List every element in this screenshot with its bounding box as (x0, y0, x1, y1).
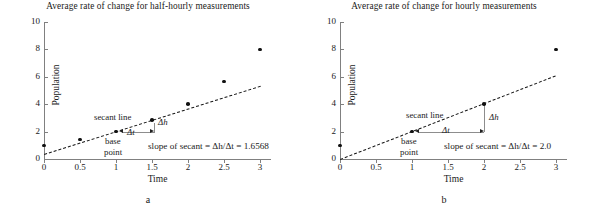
x-axis-label-a: Time (44, 174, 271, 184)
x-tick-label-1_5: 1.5 (433, 162, 463, 172)
x-tick-label-1_5: 1.5 (137, 162, 167, 172)
y-tick-label-6: 6 (6, 72, 40, 81)
annotation-slope-b: slope of secant = Δh/Δt = 2.0 (444, 141, 551, 151)
x-tick-label-2: 2 (469, 162, 499, 172)
data-point (482, 102, 486, 106)
chart-title-b: Average rate of change for hourly measur… (296, 1, 592, 11)
data-point (554, 48, 558, 52)
annotation-slope-a: slope of secant = Δh/Δt = 1.6568 (148, 141, 269, 151)
annotation-point-b: point (400, 147, 418, 157)
annotation-delta-h-b: Δh (489, 112, 499, 122)
delta-t-arrow-right-a (150, 129, 154, 133)
y-tick-label-4: 4 (6, 99, 40, 108)
y-tick-6 (340, 77, 344, 78)
data-point (222, 80, 226, 84)
x-axis-b (340, 159, 567, 160)
x-axis-a (44, 159, 271, 160)
y-tick-2 (44, 132, 48, 133)
data-point (410, 130, 414, 134)
x-axis-label-b: Time (340, 174, 567, 184)
data-point (150, 118, 154, 122)
x-tick-label-1: 1 (101, 162, 131, 172)
x-tick-label-2: 2 (173, 162, 203, 172)
y-tick-10 (44, 22, 48, 23)
plot-area-a: 0 2 4 6 8 10 0 0.5 1 1.5 2 2.5 3 (44, 22, 270, 159)
data-point (78, 138, 82, 142)
x-tick-label-3: 3 (245, 162, 275, 172)
data-point (114, 130, 118, 134)
delta-t-guide-b (418, 132, 484, 133)
annotation-secant-line-b: secant line (406, 110, 443, 120)
y-axis-a (44, 22, 45, 160)
y-axis-label-a: Population (51, 45, 61, 125)
y-tick-label-2: 2 (6, 127, 40, 136)
y-tick-6 (44, 77, 48, 78)
annotation-delta-t-a: Δt (127, 127, 135, 137)
y-tick-label-4: 4 (302, 99, 336, 108)
figure-two-panel-average-rate-of-change: Average rate of change for half-hourly m… (0, 0, 593, 216)
data-point (186, 102, 190, 106)
x-tick-label-3: 3 (541, 162, 571, 172)
y-tick-label-10: 10 (6, 17, 40, 26)
data-point (258, 48, 262, 52)
annotation-base-a: base (105, 136, 121, 146)
delta-t-arrow-left-b (415, 129, 419, 133)
y-tick-8 (340, 49, 344, 50)
x-tick-label-0_5: 0.5 (361, 162, 391, 172)
y-tick-4 (44, 104, 48, 105)
annotation-base-b: base (401, 136, 417, 146)
x-tick-label-2_5: 2.5 (505, 162, 535, 172)
delta-h-guide-a (154, 123, 155, 133)
x-tick-label-1: 1 (397, 162, 427, 172)
y-tick-8 (44, 49, 48, 50)
y-tick-10 (340, 22, 344, 23)
y-tick-label-6: 6 (302, 72, 336, 81)
x-tick-label-2_5: 2.5 (209, 162, 239, 172)
data-point (338, 144, 342, 148)
y-tick-label-8: 8 (302, 44, 336, 53)
annotation-secant-line-a: secant line (94, 112, 131, 122)
chart-title-a: Average rate of change for half-hourly m… (0, 1, 296, 11)
panel-a: Average rate of change for half-hourly m… (0, 0, 296, 216)
y-tick-4 (340, 104, 344, 105)
x-tick-label-0_5: 0.5 (65, 162, 95, 172)
delta-t-arrow-right-b (480, 129, 484, 133)
y-tick-label-8: 8 (6, 44, 40, 53)
y-tick-label-10: 10 (302, 17, 336, 26)
y-tick-2 (340, 132, 344, 133)
data-point (42, 144, 46, 148)
plot-area-b: 0 2 4 6 8 10 0 0.5 1 1.5 2 2.5 3 (340, 22, 566, 159)
y-tick-label-2: 2 (302, 127, 336, 136)
x-tick-label-0: 0 (325, 162, 355, 172)
annotation-point-a: point (104, 147, 122, 157)
delta-h-guide-b (484, 104, 485, 131)
y-axis-label-b: Population (347, 45, 357, 125)
x-tick-label-0: 0 (29, 162, 59, 172)
panel-b: Average rate of change for hourly measur… (296, 0, 592, 216)
annotation-delta-h-a: Δh (158, 117, 168, 127)
panel-letter-b: b (296, 194, 592, 205)
y-axis-b (340, 22, 341, 160)
panel-letter-a: a (0, 194, 296, 205)
delta-t-arrow-left-a (119, 129, 123, 133)
annotation-delta-t-b: Δt (442, 125, 450, 135)
